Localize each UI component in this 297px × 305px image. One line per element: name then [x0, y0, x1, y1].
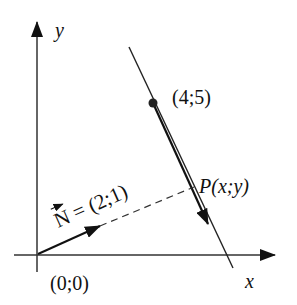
point-label: (4;5) — [172, 86, 211, 109]
diagram-canvas: y x (0;0) (4;5) P(x;y) N = (2;1) — [0, 0, 297, 305]
x-axis-label: x — [244, 270, 254, 292]
y-axis-label: y — [53, 19, 64, 42]
normal-label: N = (2;1) — [50, 178, 131, 233]
p-label: P(x;y) — [198, 175, 249, 198]
direction-arrow — [153, 103, 208, 224]
origin-label: (0;0) — [50, 272, 89, 295]
normal-vector — [38, 226, 100, 254]
line-through-point — [129, 47, 233, 268]
normal-equals: = (2;1) — [69, 179, 132, 224]
point-dot — [149, 99, 158, 108]
